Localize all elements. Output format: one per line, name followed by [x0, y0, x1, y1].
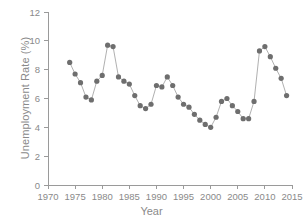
- unemployment-rate-chart: Unemployment Rate (%) Year 024681012 197…: [0, 0, 303, 224]
- data-point: [78, 80, 83, 85]
- data-point: [241, 116, 246, 121]
- data-point: [230, 103, 235, 108]
- data-point: [83, 94, 88, 99]
- x-tick-label: 2000: [200, 191, 221, 202]
- data-point: [224, 96, 229, 101]
- x-tick-label: 1970: [37, 191, 58, 202]
- y-tick-label: 4: [35, 122, 40, 133]
- data-point: [148, 102, 153, 107]
- data-point: [165, 74, 170, 79]
- plot-area: 024681012 197019751980198519901995200020…: [0, 0, 303, 224]
- y-tick-label: 6: [35, 93, 40, 104]
- y-axis-ticks: 024681012: [29, 7, 48, 191]
- data-point: [246, 116, 251, 121]
- y-tick-label: 12: [29, 7, 40, 18]
- data-point: [105, 43, 110, 48]
- y-tick-label: 0: [35, 180, 40, 191]
- y-tick-label: 8: [35, 64, 40, 75]
- data-point: [219, 99, 224, 104]
- x-tick-label: 1975: [65, 191, 86, 202]
- x-tick-label: 1980: [92, 191, 113, 202]
- data-point: [251, 99, 256, 104]
- data-point: [154, 83, 159, 88]
- data-point: [208, 125, 213, 130]
- data-point: [94, 79, 99, 84]
- data-point: [143, 106, 148, 111]
- data-point: [89, 97, 94, 102]
- data-point: [138, 103, 143, 108]
- data-point: [257, 48, 262, 53]
- data-point: [132, 93, 137, 98]
- x-tick-label: 2010: [254, 191, 275, 202]
- data-point: [279, 76, 284, 81]
- data-point: [192, 112, 197, 117]
- data-point: [159, 84, 164, 89]
- data-point: [110, 44, 115, 49]
- data-point: [67, 60, 72, 65]
- data-point: [197, 118, 202, 123]
- x-tick-label: 2005: [227, 191, 248, 202]
- data-point: [203, 122, 208, 127]
- x-tick-label: 1985: [119, 191, 140, 202]
- data-point: [273, 66, 278, 71]
- data-point: [262, 44, 267, 49]
- data-point: [268, 54, 273, 59]
- data-point: [116, 74, 121, 79]
- x-tick-label: 1990: [146, 191, 167, 202]
- unemployment-series-line: [70, 45, 287, 127]
- data-point: [100, 73, 105, 78]
- data-point: [213, 115, 218, 120]
- data-point: [235, 109, 240, 114]
- x-axis-ticks: 1970197519801985199019952000200520102015: [37, 185, 302, 202]
- data-point: [186, 105, 191, 110]
- data-point: [176, 94, 181, 99]
- x-tick-label: 2015: [281, 191, 302, 202]
- y-tick-label: 2: [35, 151, 40, 162]
- data-point: [127, 81, 132, 86]
- x-tick-label: 1995: [173, 191, 194, 202]
- data-point: [284, 93, 289, 98]
- data-point: [170, 83, 175, 88]
- y-tick-label: 10: [29, 35, 40, 46]
- data-point: [73, 71, 78, 76]
- data-point: [121, 79, 126, 84]
- data-point: [181, 102, 186, 107]
